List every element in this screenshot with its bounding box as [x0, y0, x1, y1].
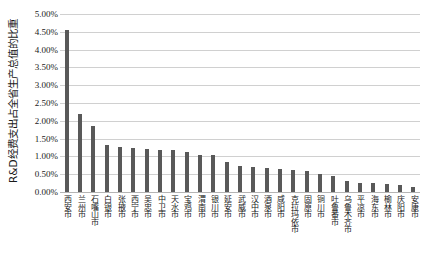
x-label-slot: 张掖市: [113, 195, 126, 273]
y-axis-tick-labels: 5.00%4.50%4.00%3.50%3.00%2.50%2.00%1.50%…: [22, 14, 58, 192]
bar-slot: [73, 14, 86, 192]
y-axis-tick-label: 1.00%: [35, 151, 58, 161]
y-axis-tick-label: 4.50%: [35, 27, 58, 37]
x-axis-tick-label: 克拉玛依市: [289, 195, 297, 273]
y-axis-tick-label: 2.00%: [35, 116, 58, 126]
x-axis-tick-label: 铜川市: [316, 195, 324, 273]
x-label-slot: 庆阳市: [393, 195, 406, 273]
bar-slot: [233, 14, 246, 192]
bar: [211, 155, 215, 192]
plot-area: [60, 14, 420, 192]
x-label-slot: 兰州市: [73, 195, 86, 273]
x-axis-tick-label: 天水市: [169, 195, 177, 273]
bar-slot: [353, 14, 366, 192]
x-axis-tick-label: 张掖市: [116, 195, 124, 273]
x-label-slot: 银川市: [207, 195, 220, 273]
bar-slot: [327, 14, 340, 192]
x-axis-tick-label: 延安市: [223, 195, 231, 273]
bar: [251, 167, 255, 192]
x-axis-tick-label: 石嘴山市: [89, 195, 97, 273]
x-label-slot: 榆林市: [380, 195, 393, 273]
bar: [238, 166, 242, 192]
bar-slot: [180, 14, 193, 192]
x-label-slot: 武威市: [233, 195, 246, 273]
x-label-slot: 铜川市: [313, 195, 326, 273]
x-axis-tick-label: 安康市: [409, 195, 417, 273]
x-axis-tick-label: 海东市: [369, 195, 377, 273]
x-label-slot: 中卫市: [153, 195, 166, 273]
x-axis-tick-label: 榆林市: [382, 195, 390, 273]
bar-slot: [220, 14, 233, 192]
x-axis-tick-label: 武威市: [236, 195, 244, 273]
bar-slot: [260, 14, 273, 192]
x-label-slot: 固原市: [300, 195, 313, 273]
bar: [131, 148, 135, 192]
bar: [185, 152, 189, 192]
y-axis-tick-label: 0.00%: [35, 187, 58, 197]
bar: [118, 147, 122, 192]
bar: [65, 30, 69, 192]
x-axis-tick-label: 咸阳市: [276, 195, 284, 273]
bar: [278, 169, 282, 192]
x-label-slot: 渭南市: [193, 195, 206, 273]
x-axis-tick-label: 庆阳市: [396, 195, 404, 273]
x-axis-tick-label: 宝鸡市: [183, 195, 191, 273]
axis-baseline: [60, 192, 420, 193]
bar: [171, 150, 175, 192]
x-label-slot: 延安市: [220, 195, 233, 273]
bar-slot: [300, 14, 313, 192]
x-axis-tick-label: 西安市: [63, 195, 71, 273]
bar: [305, 171, 309, 192]
x-axis-tick-label: 渭南市: [196, 195, 204, 273]
bar: [78, 114, 82, 192]
x-label-slot: 海东市: [367, 195, 380, 273]
x-label-slot: 石嘴山市: [87, 195, 100, 273]
bar-slot: [247, 14, 260, 192]
x-label-slot: 宝鸡市: [180, 195, 193, 273]
bar: [145, 149, 149, 192]
x-label-slot: 克拉玛依市: [287, 195, 300, 273]
bar: [291, 170, 295, 192]
x-axis-tick-label: 酒泉市: [263, 195, 271, 273]
y-axis-tick-label: 2.50%: [35, 98, 58, 108]
y-axis-tick-label: 3.50%: [35, 62, 58, 72]
bar-slot: [113, 14, 126, 192]
bar-slot: [313, 14, 326, 192]
x-axis-tick-label: 银川市: [209, 195, 217, 273]
bar: [411, 187, 415, 192]
bar-slot: [340, 14, 353, 192]
x-label-slot: 吴忠市: [140, 195, 153, 273]
x-label-slot: 咸阳市: [273, 195, 286, 273]
x-axis-tick-label: 兰州市: [76, 195, 84, 273]
bar-slot: [273, 14, 286, 192]
bar: [345, 181, 349, 192]
bar: [331, 176, 335, 192]
y-axis-title: R&D经费支出占全省生产总值的比重: [8, 6, 19, 196]
x-label-slot: 西宁市: [127, 195, 140, 273]
bar-slot: [287, 14, 300, 192]
x-axis-tick-label: 汉中市: [249, 195, 257, 273]
bar-slot: [140, 14, 153, 192]
y-axis-tick-label: 1.50%: [35, 134, 58, 144]
bar-slot: [207, 14, 220, 192]
x-label-slot: 酒泉市: [260, 195, 273, 273]
bar-slot: [167, 14, 180, 192]
y-axis-tick-label: 4.00%: [35, 45, 58, 55]
x-label-slot: 汉中市: [247, 195, 260, 273]
x-label-slot: 乌鲁木齐市: [340, 195, 353, 273]
y-axis-tick-label: 0.50%: [35, 169, 58, 179]
bar-slot: [100, 14, 113, 192]
bar-slot: [193, 14, 206, 192]
bar-slot: [127, 14, 140, 192]
bar: [158, 150, 162, 192]
x-label-slot: 平凉市: [353, 195, 366, 273]
x-axis-tick-label: 平凉市: [356, 195, 364, 273]
bar-slot: [87, 14, 100, 192]
bar: [358, 183, 362, 192]
x-axis-tick-labels: 西安市兰州市石嘴山市白银市张掖市西宁市吴忠市中卫市天水市宝鸡市渭南市银川市延安市…: [60, 195, 420, 273]
x-label-slot: 天水市: [167, 195, 180, 273]
x-label-slot: 安康市: [407, 195, 420, 273]
bar: [198, 155, 202, 192]
x-axis-tick-label: 吴忠市: [143, 195, 151, 273]
x-axis-tick-label: 中卫市: [156, 195, 164, 273]
